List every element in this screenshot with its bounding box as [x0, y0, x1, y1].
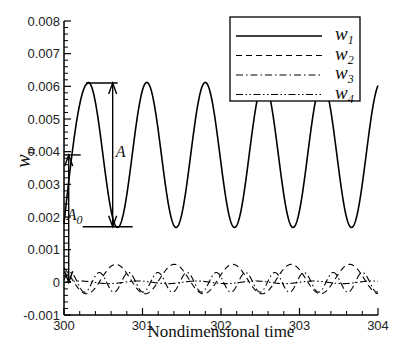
legend-label-sub: 2: [348, 53, 354, 67]
x-axis-title: Nondimensional time: [148, 322, 295, 341]
annotation-layer: AA0: [64, 83, 133, 282]
y-tick-label: 0: [53, 275, 60, 290]
series-line-w4: [64, 281, 378, 284]
legend-label-sub: 4: [348, 92, 354, 106]
y-tick-label: 0.005: [27, 112, 60, 127]
y-axis-title-main: w: [12, 154, 34, 168]
y-tick-label: 0.007: [27, 46, 60, 61]
series-line-w2: [64, 264, 378, 293]
series-line-w1: [64, 82, 378, 227]
y-tick-label: 0.002: [27, 210, 60, 225]
annotation-A0-sub: 0: [76, 213, 82, 227]
y-axis-title-sub: n: [24, 148, 38, 154]
x-tick-label: 304: [367, 318, 389, 333]
legend-label-sub: 3: [347, 72, 354, 86]
chart: AA0 -0.00100.0010.0020.0030.0040.0050.00…: [0, 0, 402, 353]
y-tick-label: 0.006: [27, 79, 60, 94]
y-tick-label: 0.003: [27, 177, 60, 192]
series-layer: [64, 82, 378, 293]
y-tick-label: 0.001: [27, 242, 60, 257]
legend: w1w2w3w4: [230, 17, 360, 106]
annotation-A-label: A: [115, 143, 126, 160]
legend-label-sub: 1: [348, 33, 354, 47]
x-tick-label: 300: [53, 318, 75, 333]
y-tick-label: 0.008: [27, 14, 60, 29]
